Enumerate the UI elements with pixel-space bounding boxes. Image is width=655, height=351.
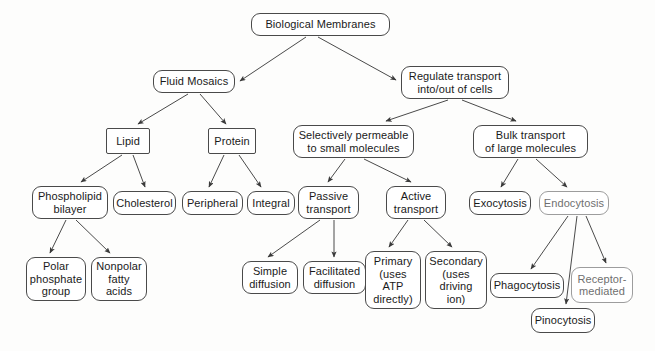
node-lipid[interactable]: Lipid xyxy=(106,128,150,154)
node-passive[interactable]: Passive transport xyxy=(298,186,359,219)
node-exocytosis[interactable]: Exocytosis xyxy=(469,191,531,215)
edge-protein-to-peripheral xyxy=(209,155,224,187)
node-active[interactable]: Active transport xyxy=(386,186,446,219)
edge-selectively-to-active xyxy=(364,159,411,182)
edge-bulk-to-exocytosis xyxy=(501,159,518,187)
edge-active-to-primary xyxy=(389,220,408,247)
edge-selectively-to-passive xyxy=(328,159,345,182)
edge-lipid-to-phospholipid xyxy=(81,155,122,182)
edge-bio_membranes-to-fluid_mosaics xyxy=(240,37,306,81)
node-secondary[interactable]: Secondary (uses driving ion) xyxy=(425,251,487,309)
edge-phospholipid-to-polar xyxy=(50,220,66,253)
node-bio_membranes[interactable]: Biological Membranes xyxy=(251,13,390,36)
node-integral[interactable]: Integral xyxy=(247,191,295,215)
node-peripheral[interactable]: Peripheral xyxy=(182,191,243,215)
node-protein[interactable]: Protein xyxy=(208,128,256,154)
edge-endocytosis-to-receptor xyxy=(586,216,606,263)
edge-bulk-to-endocytosis xyxy=(536,159,567,187)
concept-map-diagram: Biological MembranesFluid MosaicsRegulat… xyxy=(0,0,655,351)
edge-lipid-to-cholesterol xyxy=(133,155,145,187)
node-fluid_mosaics[interactable]: Fluid Mosaics xyxy=(153,70,235,93)
node-polar[interactable]: Polar phosphate group xyxy=(26,257,86,301)
node-nonpolar[interactable]: Nonpolar fatty acids xyxy=(91,257,147,301)
edge-endocytosis-to-phagocytosis xyxy=(531,216,568,269)
edge-bio_membranes-to-regulate xyxy=(318,37,396,80)
node-phagocytosis[interactable]: Phagocytosis xyxy=(490,273,564,298)
node-receptor[interactable]: Receptor- mediated xyxy=(571,267,633,303)
node-endocytosis[interactable]: Endocytosis xyxy=(539,191,609,215)
edge-passive-to-simple_diff xyxy=(268,220,320,257)
edge-phospholipid-to-nonpolar xyxy=(76,220,110,253)
node-simple_diff[interactable]: Simple diffusion xyxy=(242,261,298,294)
node-regulate[interactable]: Regulate transport into/out of cells xyxy=(401,66,509,99)
edge-protein-to-integral xyxy=(239,155,261,187)
node-cholesterol[interactable]: Cholesterol xyxy=(113,191,176,215)
edge-fluid_mosaics-to-protein xyxy=(200,94,226,124)
node-bulk[interactable]: Bulk transport of large molecules xyxy=(473,125,588,158)
node-selectively[interactable]: Selectively permeable to small molecules xyxy=(293,125,414,158)
node-primary[interactable]: Primary (uses ATP directly) xyxy=(365,251,421,309)
edge-fluid_mosaics-to-lipid xyxy=(138,94,188,124)
node-pinocytosis[interactable]: Pinocytosis xyxy=(531,308,595,333)
edge-regulate-to-selectively xyxy=(386,100,448,121)
edge-regulate-to-bulk xyxy=(462,100,516,121)
edge-active-to-secondary xyxy=(424,220,452,247)
node-facilitated[interactable]: Facilitated diffusion xyxy=(303,261,366,294)
node-phospholipid[interactable]: Phospholipid bilayer xyxy=(32,186,108,219)
